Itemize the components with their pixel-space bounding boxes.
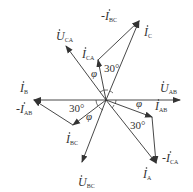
phasor-dot-mark [163, 81, 165, 83]
angle-arc [112, 105, 114, 108]
phasor-dot-mark [158, 99, 160, 101]
phasor-svg: UABUCAUBCICICA-IBCIBIBC-IABIABIA-ICA 30°… [0, 0, 193, 192]
phasor-dot-mark [23, 81, 25, 83]
phasor-label: UAB [160, 81, 177, 95]
phasor-label: -ICA [162, 151, 179, 165]
phasor-dot-mark [146, 167, 148, 169]
thirty-degree-label: 30° [104, 62, 119, 74]
angle-arc [96, 100, 98, 106]
phasor-dot-mark [69, 132, 71, 134]
phasor-i-c [106, 21, 139, 100]
phasor-diagram: UABUCAUBCICICA-IBCIBIBC-IABIABIA-ICA 30°… [0, 0, 193, 192]
thirty-degree-label: 30° [130, 119, 145, 131]
phasor-dot-mark [59, 29, 61, 31]
phasor-dot-mark [170, 151, 172, 153]
phi-angle-label: φ [136, 97, 142, 109]
phasor-label: -IAB [16, 102, 32, 116]
phasor-dot-mark [109, 9, 111, 11]
phasor-dot-mark [147, 25, 149, 27]
phasor-label: IBC [65, 132, 78, 146]
thirty-degree-label: 30° [69, 102, 84, 114]
phasor--i-ab [34, 100, 73, 125]
phasor-labels: UABUCAUBCICICA-IBCIBIBC-IABIABIA-ICA [16, 9, 179, 189]
phasor-label: IA [142, 167, 152, 181]
phasor-dot-mark [24, 102, 26, 104]
phasor-label: IC [143, 25, 152, 39]
phasor-dot-mark [81, 175, 83, 177]
angle-arc [110, 91, 113, 93]
phasor--i-bc [98, 21, 139, 60]
phasor--i-ca [152, 117, 156, 163]
phasor-label: UBC [78, 175, 95, 189]
phasor-label: UCA [56, 29, 74, 43]
phi-angle-label: φ [91, 67, 97, 79]
phasor-dot-mark [85, 47, 87, 49]
phi-angle-label: φ [86, 110, 92, 122]
phasor-label: IB [19, 81, 28, 95]
phasor-label: ICA [81, 47, 95, 61]
phasor-label: IAB [154, 99, 167, 113]
phasor-label: -IBC [101, 9, 117, 23]
